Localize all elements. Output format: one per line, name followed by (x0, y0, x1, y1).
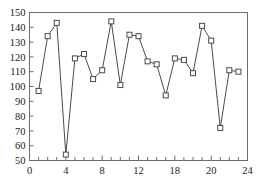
y-tick-label: 90 (15, 96, 26, 107)
data-point-marker (36, 88, 41, 93)
data-point-marker (172, 56, 177, 61)
x-axis-ticks (30, 156, 248, 161)
data-point-marker (136, 34, 141, 39)
data-point-marker (191, 71, 196, 76)
data-point-marker (154, 62, 159, 67)
data-point-marker (118, 83, 123, 88)
data-point-marker (227, 68, 232, 73)
data-point-marker (91, 77, 96, 82)
data-point-marker (163, 93, 168, 98)
y-tick-label: 110 (10, 66, 25, 77)
x-tick-label: 8 (100, 165, 105, 176)
data-point-marker (145, 59, 150, 64)
data-point-marker (82, 51, 87, 56)
data-point-marker (63, 152, 68, 157)
x-tick-label: 18 (170, 165, 181, 176)
data-point-marker (181, 57, 186, 62)
line-chart: 1501401301201101009080706050 04812182024 (0, 0, 258, 183)
data-point-marker (100, 68, 105, 73)
data-point-marker (209, 38, 214, 43)
data-series-group (36, 19, 241, 157)
data-point-marker (200, 23, 205, 28)
x-tick-label: 4 (63, 165, 69, 176)
y-tick-label: 50 (15, 155, 26, 166)
y-tick-label: 150 (10, 7, 26, 18)
y-axis-ticks (30, 13, 34, 161)
x-tick-label: 12 (133, 165, 144, 176)
data-point-marker (236, 69, 241, 74)
series-markers (36, 19, 241, 157)
x-tick-label: 0 (27, 165, 32, 176)
y-tick-label: 80 (15, 111, 26, 122)
data-point-marker (109, 19, 114, 24)
x-axis-tick-labels: 04812182024 (27, 165, 254, 176)
y-axis-tick-labels: 1501401301201101009080706050 (10, 7, 26, 166)
chart-container: 1501401301201101009080706050 04812182024 (0, 0, 258, 183)
y-tick-label: 70 (15, 126, 26, 137)
data-point-marker (54, 20, 59, 25)
y-tick-label: 130 (10, 37, 26, 48)
y-tick-label: 120 (10, 52, 26, 63)
y-tick-label: 140 (10, 22, 26, 33)
y-tick-label: 60 (15, 140, 26, 151)
data-point-marker (218, 125, 223, 130)
data-point-marker (45, 34, 50, 39)
data-point-marker (127, 32, 132, 37)
data-point-marker (72, 56, 77, 61)
y-tick-label: 100 (10, 81, 26, 92)
x-tick-label: 24 (242, 165, 253, 176)
x-tick-label: 20 (206, 165, 217, 176)
